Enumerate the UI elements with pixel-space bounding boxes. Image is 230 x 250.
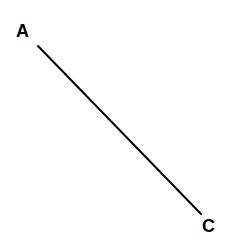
figure-canvas (0, 0, 230, 250)
line-segment-figure: A C (0, 0, 230, 250)
segment-ac (38, 46, 201, 214)
vertex-label-a: A (16, 22, 29, 40)
vertex-label-c: C (202, 217, 215, 235)
